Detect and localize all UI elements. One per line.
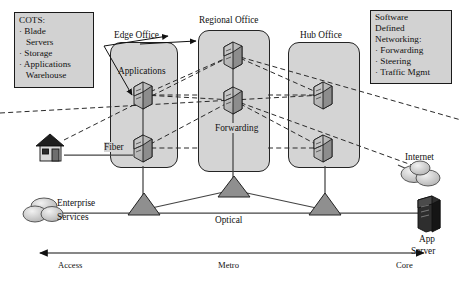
column-label-edge: Edge Office — [114, 30, 159, 40]
note-cots-item-1: Servers — [19, 37, 53, 48]
axis-label-metro: Metro — [218, 261, 239, 271]
column-label-hub: Hub Office — [300, 30, 342, 40]
network-architecture-diagram: COTS: · Blade Servers · Storage · Applic… — [0, 0, 461, 283]
label-enterprise-line2: Services — [57, 212, 89, 222]
note-cots-item-4: Warehouse — [19, 70, 66, 81]
note-cots-item-0: · Blade — [19, 26, 46, 37]
label-fiber: Fiber — [104, 142, 124, 152]
note-sdn-heading: Software — [375, 12, 408, 23]
label-appserver-line2: Server — [411, 246, 435, 256]
note-sdn-item-1: Networking: — [375, 34, 421, 45]
note-cots-heading: COTS: — [19, 15, 45, 26]
label-internet: Internet — [405, 152, 434, 162]
label-applications: Applications — [118, 66, 166, 76]
note-sdn-item-0: Defined — [375, 23, 405, 34]
note-cots-item-2: · Storage — [19, 48, 52, 59]
axis-label-access: Access — [58, 261, 82, 271]
label-forwarding: Forwarding — [215, 123, 258, 133]
label-appserver-line1: App — [419, 234, 435, 244]
internet-cloud-icon — [401, 161, 440, 186]
note-sdn-item-2: · Forwarding — [375, 45, 423, 56]
label-optical: Optical — [215, 215, 242, 225]
note-sdn-item-4: · Traffic Mgmt — [375, 67, 430, 78]
house-icon — [36, 134, 64, 161]
column-label-regional: Regional Office — [199, 15, 258, 25]
optical-switch-nodes — [128, 176, 341, 215]
note-sdn-item-3: · Steering — [375, 56, 411, 67]
app-server-icon — [418, 196, 440, 232]
note-cots-item-3: · Applications — [19, 59, 71, 70]
label-enterprise-line1: Enterprise — [57, 198, 95, 208]
axis-label-core: Core — [396, 261, 413, 271]
